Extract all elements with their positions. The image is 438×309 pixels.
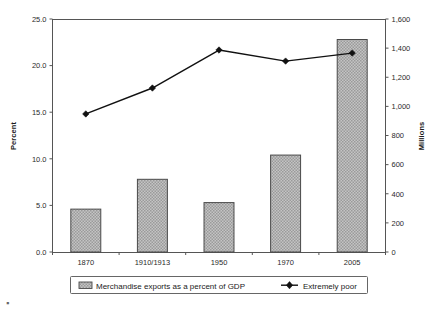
category-label-1950: 1950	[211, 258, 228, 267]
left-tick-label: 25.0	[32, 15, 47, 24]
right-tick-label: 1,200	[392, 73, 411, 82]
caption-glyph: ▪	[6, 298, 9, 308]
left-tick-label: 10.0	[32, 155, 47, 164]
legend-item-merchandise-exports[interactable]: Merchandise exports as a percent of GDP	[79, 282, 245, 291]
bar-1870	[71, 209, 101, 252]
right-axis-title: Millions	[417, 122, 426, 151]
right-tick-label: 1,000	[392, 102, 411, 111]
left-tick-label: 15.0	[32, 108, 47, 117]
right-tick-label: 800	[392, 131, 405, 140]
chart-svg: 0.05.010.015.020.025.0 02004006008001,00…	[0, 0, 438, 309]
category-label-1910-1913: 1910/1913	[135, 258, 170, 267]
category-label-1970: 1970	[277, 258, 294, 267]
category-label-2005: 2005	[344, 258, 361, 267]
right-tick-label: 400	[392, 190, 405, 199]
chart-figure: 0.05.010.015.020.025.0 02004006008001,00…	[0, 0, 438, 309]
left-tick-label: 0.0	[36, 248, 46, 257]
bar-1910-1913	[137, 179, 167, 252]
bar-1970	[271, 155, 301, 252]
category-label-1870: 1870	[77, 258, 94, 267]
bar-1950	[204, 203, 234, 252]
right-tick-label: 200	[392, 219, 405, 228]
left-tick-label: 20.0	[32, 61, 47, 70]
bar-2005	[337, 40, 367, 252]
right-tick-label: 1,400	[392, 44, 411, 53]
right-tick-label: 1,600	[392, 15, 411, 24]
legend-label-extremely-poor: Extremely poor	[303, 282, 357, 291]
right-tick-label: 0	[392, 248, 396, 257]
bar-swatch-icon	[79, 282, 92, 289]
right-tick-label: 600	[392, 160, 405, 169]
left-axis-title: Percent	[9, 121, 18, 150]
left-tick-label: 5.0	[36, 201, 46, 210]
legend-label-merchandise-exports: Merchandise exports as a percent of GDP	[96, 282, 245, 291]
